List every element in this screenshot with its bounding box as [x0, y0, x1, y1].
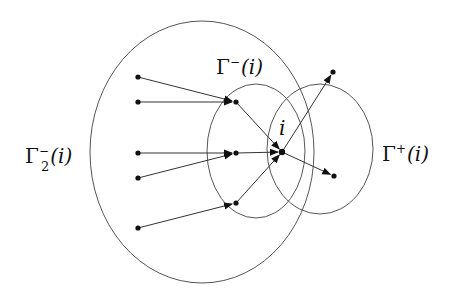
node-b3: [233, 200, 238, 205]
node-c1: [330, 69, 335, 74]
edge-b2-i: [236, 152, 278, 153]
edge-a5-b3: [138, 204, 232, 228]
edge-i-c2: [282, 152, 330, 174]
node-a2: [135, 99, 140, 104]
edge-b1-i: [236, 102, 279, 149]
edge-i-c1: [282, 75, 331, 152]
node-a3: [135, 150, 140, 155]
node-a5: [135, 225, 140, 230]
nodes: [135, 69, 336, 230]
labels: Γ−2(i)Γ−(i)Γ+(i)i: [25, 55, 429, 174]
node-b2: [233, 150, 238, 155]
region-label-gamma-plus: Γ+(i): [382, 142, 429, 166]
neighborhood-diagram: Γ−2(i)Γ−(i)Γ+(i)i: [0, 0, 456, 303]
edge-a1-b1: [138, 77, 232, 101]
node-center-i: [279, 149, 285, 155]
edge-a4-b2: [138, 154, 232, 178]
region-gamma-minus: [207, 84, 305, 218]
node-a1: [135, 74, 140, 79]
node-c2: [331, 173, 336, 178]
node-b1: [233, 99, 238, 104]
region-label-gamma2-minus: Γ−2(i): [25, 144, 72, 174]
region-label-gamma-minus: Γ−(i): [216, 55, 263, 79]
node-a4: [135, 175, 140, 180]
center-node-label: i: [279, 116, 285, 140]
